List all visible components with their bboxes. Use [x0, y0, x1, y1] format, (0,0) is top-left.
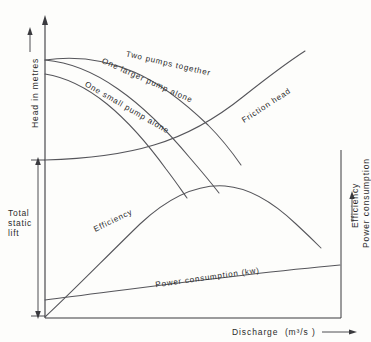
chart-canvas: [0, 0, 371, 342]
static-lift-line3: lift: [8, 228, 19, 238]
y-axis-left-label: Head in metres: [30, 58, 40, 128]
static-lift-arrow-bottom-icon: [35, 311, 41, 319]
axis-lines: [42, 15, 341, 318]
x-axis-label: Discharge (m³/s ): [232, 327, 316, 337]
discharge-axis-arrow: [322, 329, 357, 334]
static-lift-line2: static: [8, 218, 32, 228]
pump-characteristic-curves-figure: Head in metres Totalstaticlift Two pumps…: [0, 0, 371, 342]
head-axis-arrow: [27, 27, 32, 52]
static-lift-label: Totalstaticlift: [8, 208, 32, 238]
static-lift-line1: Total: [8, 208, 29, 218]
y-axis-right-efficiency-label: Efficiency: [350, 183, 360, 228]
y-axis-right-power-label: Power consumption: [361, 158, 371, 248]
curve-one-larger-pump-alone: [45, 60, 219, 193]
static-lift-arrow-top-icon: [35, 157, 41, 165]
curve-efficiency: [45, 186, 321, 317]
static-lift-dimension: [31, 157, 45, 319]
y-axis-arrowhead-icon: [42, 15, 48, 25]
